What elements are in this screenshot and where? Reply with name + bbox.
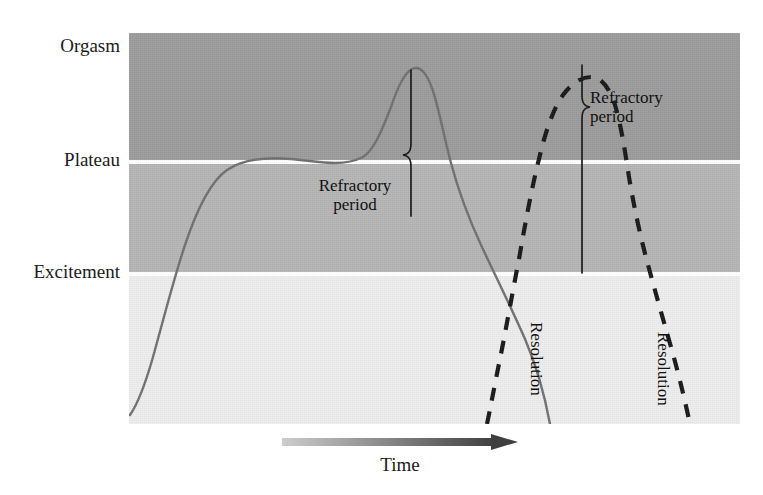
y-axis-label-orgasm: Orgasm — [0, 36, 120, 55]
annotation-resolution-solid: Resolution — [526, 322, 546, 396]
annotation-refractory-1-line2: period — [305, 195, 405, 214]
x-axis-label-time: Time — [282, 455, 518, 474]
curve-solid-male — [130, 68, 550, 424]
annotation-refractory-2-line2: period — [590, 107, 700, 126]
annotation-resolution-dashed: Resolution — [653, 332, 673, 406]
brace-refractory-2 — [582, 65, 590, 273]
y-axis-label-plateau: Plateau — [0, 150, 120, 169]
annotation-refractory-2-line1: Refractory — [590, 88, 700, 107]
annotation-refractory-period-1: Refractory period — [305, 176, 405, 214]
figure-canvas: Orgasm Plateau Excitement Refractory per… — [0, 0, 763, 495]
annotation-refractory-period-2: Refractory period — [590, 88, 700, 126]
y-axis-label-excitement: Excitement — [0, 262, 120, 281]
time-arrow-icon — [282, 434, 518, 450]
annotation-refractory-1-line1: Refractory — [305, 176, 405, 195]
